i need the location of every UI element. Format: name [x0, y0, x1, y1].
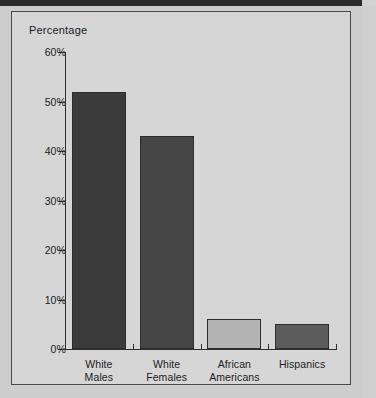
page-top-band-right-gap: [362, 0, 376, 6]
y-axis-line: [65, 52, 66, 350]
y-axis-tick-mark: [58, 300, 65, 301]
x-axis-tick-mark: [133, 344, 134, 350]
x-axis-category-label: Hispanics: [268, 358, 336, 371]
chart-screenshot: Percentage 0%10%20%30%40%50%60% White Ma…: [0, 0, 376, 398]
x-axis-tick-mark: [65, 344, 66, 350]
y-axis-tick-mark: [58, 349, 65, 350]
y-axis-tick-mark: [58, 201, 65, 202]
x-axis-category-label: White Males: [65, 358, 133, 384]
y-axis-tick-mark: [58, 52, 65, 53]
bar: [72, 92, 126, 349]
x-axis-tick-mark: [336, 344, 337, 350]
plot-area: Percentage 0%10%20%30%40%50%60% White Ma…: [12, 12, 350, 384]
bar: [140, 136, 194, 349]
figure-frame: Percentage 0%10%20%30%40%50%60% White Ma…: [11, 11, 351, 385]
y-axis-tick-mark: [58, 151, 65, 152]
x-axis-category-label: White Females: [133, 358, 201, 384]
page-top-band: [0, 0, 362, 6]
x-axis-tick-mark: [201, 344, 202, 350]
page-right-margin: [362, 0, 376, 398]
bar: [207, 319, 261, 349]
y-axis-tick-mark: [58, 250, 65, 251]
x-axis-tick-mark: [268, 344, 269, 350]
bar: [275, 324, 329, 349]
y-axis-tick-labels: 0%10%20%30%40%50%60%: [20, 12, 66, 384]
x-axis-category-label: African Americans: [201, 358, 269, 384]
y-axis-tick-mark: [58, 102, 65, 103]
